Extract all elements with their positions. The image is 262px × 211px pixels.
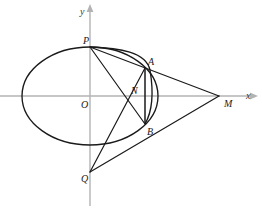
geometry-figure: P A N B M Q O x y <box>0 0 262 211</box>
segment-qm <box>90 96 219 172</box>
point-label-b: B <box>147 127 153 137</box>
figure-canvas <box>0 0 262 211</box>
point-label-n: N <box>131 86 138 96</box>
y-axis-label: y <box>80 7 84 17</box>
point-label-a: A <box>148 57 154 67</box>
origin-label: O <box>81 100 88 110</box>
point-label-p: P <box>83 36 89 46</box>
point-label-m: M <box>224 99 232 109</box>
x-axis-label: x <box>246 91 250 101</box>
segment-pm <box>90 47 219 96</box>
x-axis-arrowhead <box>250 93 258 100</box>
y-axis-arrowhead <box>87 4 94 12</box>
point-label-q: Q <box>81 174 88 184</box>
